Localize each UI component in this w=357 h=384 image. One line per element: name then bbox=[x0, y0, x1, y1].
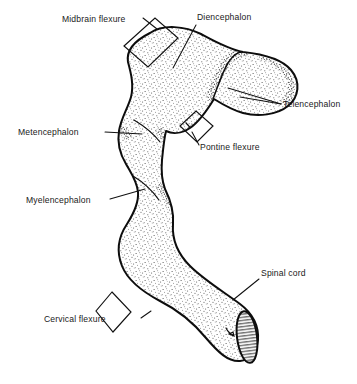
figure-root: Midbrain flexure Diencephalon Telencepha… bbox=[0, 0, 357, 384]
label-pontine-flexure: Pontine flexure bbox=[200, 142, 260, 152]
neural-tube-outline bbox=[118, 27, 297, 361]
label-midbrain-flexure: Midbrain flexure bbox=[62, 14, 126, 24]
leader-cervical-flexure bbox=[141, 311, 151, 318]
label-myelencephalon: Myelencephalon bbox=[26, 195, 91, 205]
label-telencephalon: Telencephalon bbox=[283, 99, 340, 109]
label-cervical-flexure: Cervical flexure bbox=[44, 314, 106, 324]
label-diencephalon: Diencephalon bbox=[197, 12, 251, 22]
bracket-cervical-flexure bbox=[96, 292, 131, 332]
label-spinal-cord: Spinal cord bbox=[261, 268, 306, 278]
brain-diagram-svg: Midbrain flexure Diencephalon Telencepha… bbox=[0, 0, 357, 384]
leader-spinal-cord bbox=[233, 279, 259, 300]
label-metencephalon: Metencephalon bbox=[18, 127, 79, 137]
